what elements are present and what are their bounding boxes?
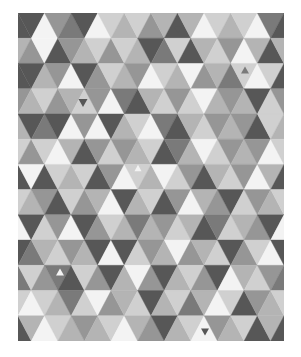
mosaic-canvas bbox=[18, 13, 284, 341]
triangle-mosaic: Grayscale triangle mosaic bbox=[18, 13, 284, 341]
